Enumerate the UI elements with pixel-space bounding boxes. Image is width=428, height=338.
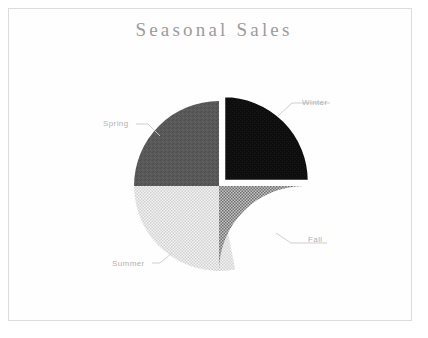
figure-canvas: Seasonal Sales [0,0,428,338]
pie-slice-winter[interactable] [224,96,309,181]
pie-slice-spring[interactable] [134,101,219,186]
pie-label-fall: Fall [308,235,323,244]
pie-label-summer: Summer [112,259,145,268]
pie-chart [0,0,428,338]
pie-label-spring: Spring [103,119,129,128]
pie-label-winter: Winter [302,98,328,107]
